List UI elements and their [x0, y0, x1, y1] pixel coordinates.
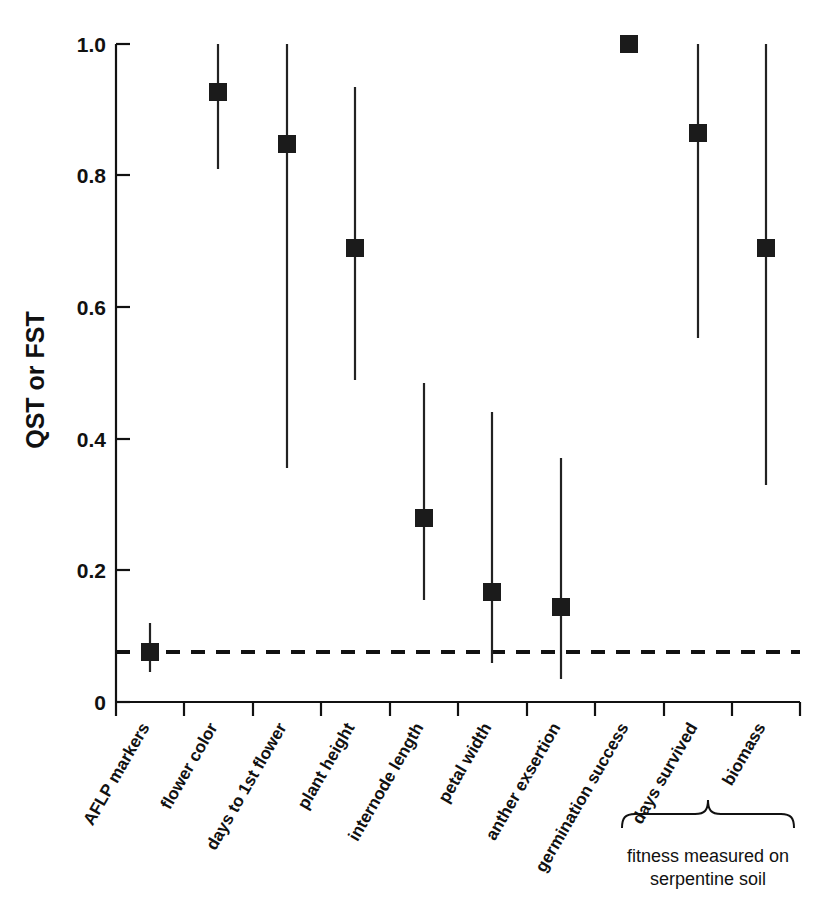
- data-point-biomass: [757, 44, 775, 485]
- x-category-label-plant-height: plant height: [294, 719, 359, 812]
- y-axis-label-text: QST or FST: [21, 311, 49, 449]
- marker-square: [209, 83, 227, 101]
- marker-square: [620, 35, 638, 53]
- marker-square: [552, 598, 570, 616]
- x-category-label-biomass: biomass: [719, 720, 770, 789]
- x-category-label-petal-width: petal width: [435, 720, 496, 806]
- y-tick-label-0: 0: [94, 691, 106, 714]
- x-category-label-flower-color: flower color: [157, 719, 222, 812]
- data-point-days-to-1st-flower: [278, 44, 296, 468]
- marker-square: [689, 124, 707, 142]
- marker-square: [757, 239, 775, 257]
- brace-label-line1: fitness measured on: [627, 846, 789, 866]
- x-category-label-anther-exsertion: anther exsertion: [482, 720, 565, 844]
- qst-fst-scatter-chart: QST or FST 1.0 0.8 0.6 0.4 0.2 0: [0, 0, 834, 918]
- marker-square: [415, 509, 433, 527]
- data-point-plant-height: [346, 87, 364, 380]
- data-point-flower-color: [209, 44, 227, 169]
- marker-square: [346, 239, 364, 257]
- y-tick-label-0.6: 0.6: [77, 296, 106, 319]
- x-category-label-internode-length: internode length: [344, 720, 427, 845]
- brace-label-line2: serpentine soil: [650, 869, 766, 889]
- data-point-days-survived: [689, 44, 707, 338]
- marker-square: [483, 583, 501, 601]
- y-tick-label-0.8: 0.8: [77, 164, 107, 187]
- x-category-label-aflp-markers: AFLP markers: [80, 720, 154, 829]
- data-point-anther-exsertion: [552, 458, 570, 679]
- y-tick-label-0.4: 0.4: [77, 428, 107, 451]
- data-series: [141, 35, 775, 679]
- chart-figure: QST or FST 1.0 0.8 0.6 0.4 0.2 0: [0, 0, 834, 918]
- data-point-germination-success: [620, 35, 638, 53]
- y-tick-label-0.2: 0.2: [77, 559, 106, 582]
- marker-square: [141, 643, 159, 661]
- marker-square: [278, 135, 296, 153]
- x-axis: [116, 702, 800, 716]
- data-point-internode-length: [415, 383, 433, 600]
- y-tick-label-1.0: 1.0: [77, 33, 106, 56]
- data-point-aflp-markers: [141, 623, 159, 672]
- x-category-label-days-survived: days survived: [628, 720, 701, 828]
- data-point-petal-width: [483, 412, 501, 663]
- fitness-group-brace: fitness measured on serpentine soil: [622, 800, 794, 889]
- y-axis-label: QST or FST: [21, 311, 49, 449]
- y-axis: 1.0 0.8 0.6 0.4 0.2 0: [77, 33, 130, 714]
